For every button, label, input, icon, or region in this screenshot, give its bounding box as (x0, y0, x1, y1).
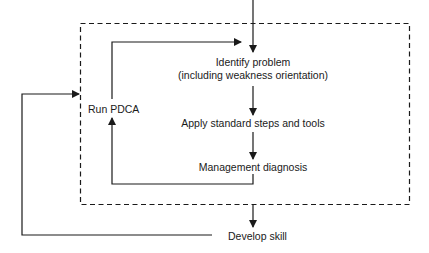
node-apply-steps: Apply standard steps and tools (181, 117, 325, 130)
node-management-diagnosis: Management diagnosis (199, 161, 308, 174)
node-run-pdca: Run PDCA (88, 103, 139, 116)
node-identify-problem: Identify problem (including weakness ori… (178, 56, 328, 82)
identify-problem-label: Identify problem (178, 56, 328, 69)
identify-problem-sublabel: (including weakness orientation) (178, 69, 328, 82)
node-develop-skill: Develop skill (228, 230, 287, 243)
